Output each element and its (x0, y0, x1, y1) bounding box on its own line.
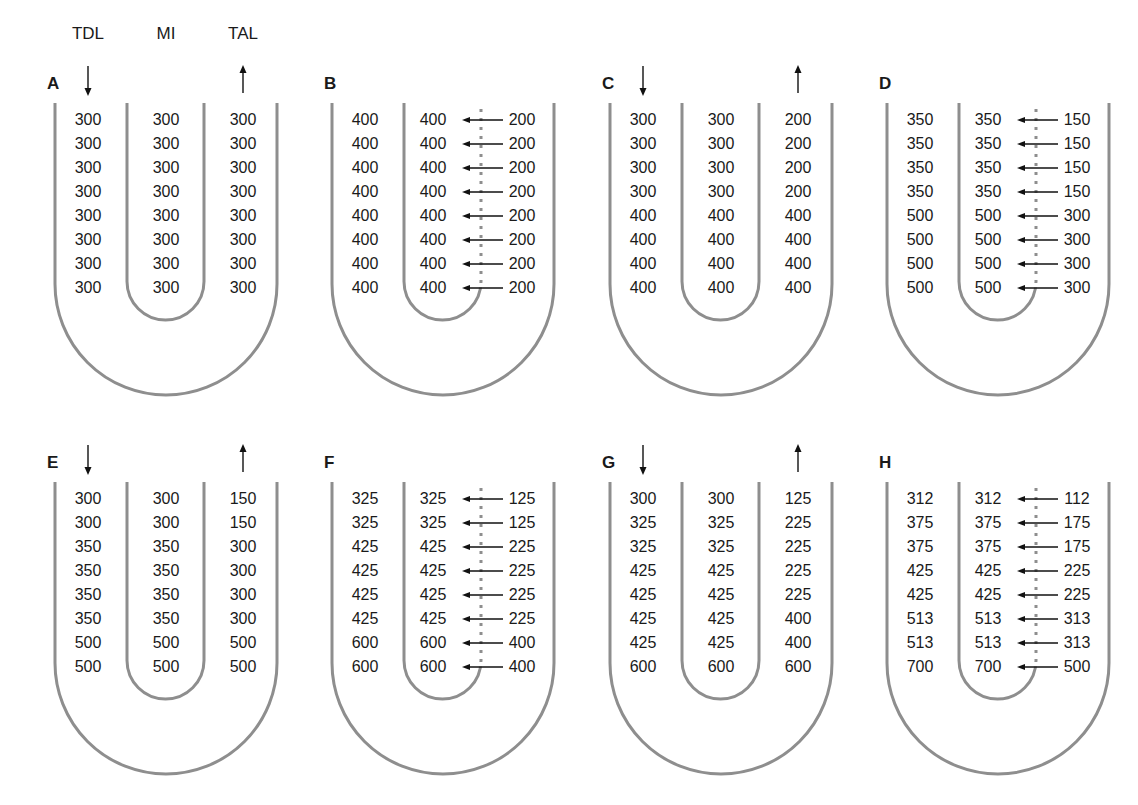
osmolality-value: 125 (509, 514, 536, 532)
osmolality-value: 300 (153, 255, 180, 273)
osmolality-value: 400 (630, 231, 657, 249)
osmolality-value: 600 (630, 658, 657, 676)
osmolality-value: 300 (153, 490, 180, 508)
osmolality-value: 500 (975, 255, 1002, 273)
osmolality-value: 600 (708, 658, 735, 676)
osmolality-value: 300 (630, 111, 657, 129)
osmolality-value: 350 (975, 183, 1002, 201)
osmolality-value: 400 (785, 279, 812, 297)
osmolality-value: 513 (975, 610, 1002, 628)
osmolality-value: 375 (975, 514, 1002, 532)
osmolality-value: 300 (230, 111, 257, 129)
osmolality-value: 700 (975, 658, 1002, 676)
osmolality-value: 300 (230, 538, 257, 556)
osmolality-value: 200 (509, 159, 536, 177)
osmolality-value: 400 (785, 207, 812, 225)
osmolality-value: 300 (230, 279, 257, 297)
osmolality-value: 300 (153, 135, 180, 153)
osmolality-value: 300 (153, 183, 180, 201)
osmolality-value: 300 (75, 514, 102, 532)
osmolality-value: 300 (1064, 231, 1091, 249)
osmolality-value: 400 (420, 207, 447, 225)
osmolality-value: 425 (352, 586, 379, 604)
panel-f: F325325125325325125425425225425425225425… (292, 412, 572, 752)
osmolality-value: 300 (153, 159, 180, 177)
osmolality-value: 300 (75, 159, 102, 177)
osmolality-value: 200 (785, 111, 812, 129)
osmolality-value: 225 (1064, 586, 1091, 604)
osmolality-value: 600 (420, 634, 447, 652)
column-header-tal: TAL (228, 24, 258, 44)
osmolality-value: 150 (1064, 111, 1091, 129)
osmolality-value: 300 (153, 514, 180, 532)
osmolality-value: 350 (153, 538, 180, 556)
osmolality-value: 350 (975, 159, 1002, 177)
osmolality-value: 300 (708, 183, 735, 201)
osmolality-value: 425 (907, 562, 934, 580)
osmolality-value: 225 (509, 610, 536, 628)
osmolality-value: 500 (907, 279, 934, 297)
osmolality-value: 300 (153, 111, 180, 129)
osmolality-value: 425 (630, 634, 657, 652)
osmolality-value: 150 (1064, 159, 1091, 177)
panel-label: G (602, 453, 615, 473)
panel-d: D350350150350350150350350150350350150500… (847, 33, 1127, 373)
osmolality-value: 700 (907, 658, 934, 676)
osmolality-value: 400 (352, 231, 379, 249)
osmolality-value: 350 (907, 135, 934, 153)
osmolality-value: 400 (630, 255, 657, 273)
osmolality-value: 325 (708, 514, 735, 532)
osmolality-value: 400 (352, 183, 379, 201)
panel-label: B (324, 74, 336, 94)
osmolality-value: 225 (509, 538, 536, 556)
osmolality-value: 300 (1064, 207, 1091, 225)
osmolality-value: 300 (230, 207, 257, 225)
osmolality-value: 350 (75, 586, 102, 604)
panel-g: G300300125325325225325325225425425225425… (570, 412, 850, 752)
osmolality-value: 225 (785, 562, 812, 580)
osmolality-value: 500 (75, 658, 102, 676)
osmolality-value: 350 (153, 610, 180, 628)
osmolality-value: 325 (708, 538, 735, 556)
osmolality-value: 300 (153, 231, 180, 249)
osmolality-value: 300 (630, 490, 657, 508)
osmolality-value: 500 (907, 207, 934, 225)
panel-label: C (602, 74, 614, 94)
osmolality-value: 350 (153, 562, 180, 580)
osmolality-value: 300 (230, 586, 257, 604)
osmolality-value: 425 (907, 586, 934, 604)
osmolality-value: 500 (153, 658, 180, 676)
osmolality-value: 300 (153, 279, 180, 297)
osmolality-value: 150 (230, 514, 257, 532)
osmolality-value: 600 (785, 658, 812, 676)
osmolality-value: 400 (420, 135, 447, 153)
osmolality-value: 300 (1064, 279, 1091, 297)
osmolality-value: 200 (509, 207, 536, 225)
osmolality-value: 600 (420, 658, 447, 676)
osmolality-value: 112 (1064, 490, 1090, 508)
osmolality-value: 325 (630, 514, 657, 532)
osmolality-value: 350 (75, 538, 102, 556)
osmolality-value: 300 (630, 159, 657, 177)
osmolality-value: 300 (75, 111, 102, 129)
osmolality-value: 400 (420, 255, 447, 273)
osmolality-value: 400 (708, 207, 735, 225)
osmolality-value: 425 (975, 562, 1002, 580)
osmolality-value: 312 (975, 490, 1002, 508)
osmolality-value: 375 (907, 538, 934, 556)
osmolality-value: 500 (153, 634, 180, 652)
osmolality-value: 150 (1064, 183, 1091, 201)
osmolality-value: 300 (230, 183, 257, 201)
osmolality-value: 500 (230, 658, 257, 676)
osmolality-value: 600 (352, 634, 379, 652)
osmolality-value: 400 (630, 279, 657, 297)
osmolality-value: 200 (785, 183, 812, 201)
osmolality-value: 400 (352, 111, 379, 129)
osmolality-value: 350 (75, 610, 102, 628)
osmolality-value: 425 (708, 562, 735, 580)
osmolality-value: 350 (907, 159, 934, 177)
panel-b: B400400200400400200400400200400400200400… (292, 33, 572, 373)
panel-e: E300300150300300150350350300350350300350… (15, 412, 295, 752)
osmolality-value: 425 (352, 610, 379, 628)
osmolality-value: 325 (352, 490, 379, 508)
